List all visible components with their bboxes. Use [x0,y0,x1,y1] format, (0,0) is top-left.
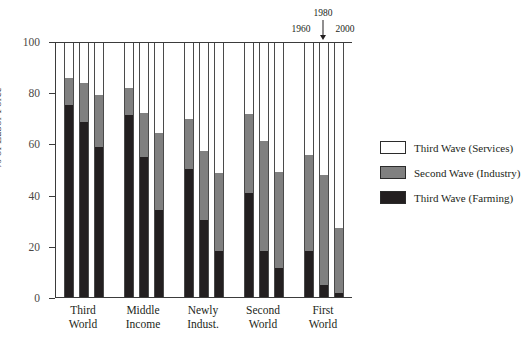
x-group-label-line: World [309,318,337,332]
legend-label-farming: Third Wave (Farming) [414,192,513,204]
legend-swatch-farming [380,191,406,204]
segment-farming [275,268,283,297]
x-group-label-newly-indust: NewlyIndust. [187,304,219,331]
bar-newly-indust-1960 [184,43,194,297]
segment-farming [155,210,163,297]
y-tick-label-60: 60 [0,138,45,150]
x-group-label-line: World [246,318,280,332]
year-label-1960: 1960 [292,24,311,34]
segment-industry [140,113,148,158]
y-tick-label-80: 80 [0,87,45,99]
segment-industry [200,151,208,220]
x-group-label-line: Second [246,304,280,318]
y-tick-label-100: 100 [0,36,45,48]
x-group-label-line: Indust. [187,318,219,332]
segment-industry [185,119,193,169]
segment-farming [65,105,73,297]
legend-label-industry: Second Wave (Industry) [414,167,520,179]
bar-third-world-1980 [79,43,89,297]
segment-farming [185,169,193,297]
bar-middle-income-1980 [139,43,149,297]
legend-swatch-services [380,141,406,154]
segment-farming [215,251,223,297]
year-arrow-stem [323,20,324,36]
legend: Third Wave (Services)Second Wave (Indust… [380,137,523,212]
segment-industry [275,172,283,268]
year-arrow-head-icon [320,35,326,40]
x-group-label-third-world: ThirdWorld [69,304,97,331]
segment-industry [155,133,163,210]
x-group-label-line: Income [126,318,160,332]
bar-first-world-1980 [319,43,329,297]
year-label-2000: 2000 [336,24,355,34]
y-tick-label-40: 40 [0,190,45,202]
segment-farming [305,251,313,297]
segment-industry [215,173,223,251]
bar-second-world-2000 [274,43,284,297]
x-group-label-line: Middle [126,304,160,318]
legend-label-services: Third Wave (Services) [414,142,513,154]
segment-farming [140,157,148,297]
segment-industry [245,114,253,193]
y-tick-label-0: 0 [0,292,45,304]
x-group-label-second-world: SecondWorld [246,304,280,331]
x-group-label-line: First [309,304,337,318]
legend-item-services: Third Wave (Services) [380,137,523,158]
bar-third-world-2000 [94,43,104,297]
legend-item-industry: Second Wave (Industry) [380,162,523,183]
bar-second-world-1980 [259,43,269,297]
y-tick-label-20: 20 [0,241,45,253]
segment-farming [320,285,328,297]
bar-first-world-1960 [304,43,314,297]
segment-farming [245,193,253,297]
x-group-label-first-world: FirstWorld [309,304,337,331]
x-group-label-line: Newly [187,304,219,318]
bar-third-world-1960 [64,43,74,297]
segment-farming [200,220,208,297]
bar-middle-income-1960 [124,43,134,297]
legend-item-farming: Third Wave (Farming) [380,187,523,208]
segment-industry [65,78,73,105]
bar-newly-indust-2000 [214,43,224,297]
year-label-1980: 1980 [314,8,333,18]
segment-farming [80,122,88,297]
segment-industry [95,95,103,147]
segment-farming [125,115,133,297]
bar-second-world-1960 [244,43,254,297]
y-axis-title: % of Labor Force [0,87,3,168]
segment-farming [95,147,103,297]
stacked-bar-chart: % of Labor Force 020406080100 1980196020… [0,0,523,344]
y-tick-0 [49,298,55,299]
segment-industry [335,228,343,293]
bar-first-world-2000 [334,43,344,297]
x-group-label-line: Third [69,304,97,318]
x-group-label-line: World [69,318,97,332]
segment-industry [80,83,88,121]
segment-industry [305,155,313,251]
segment-industry [125,88,133,115]
bar-newly-indust-1980 [199,43,209,297]
segment-industry [260,141,268,251]
legend-swatch-industry [380,166,406,179]
segment-farming [260,251,268,297]
x-group-label-middle-income: MiddleIncome [126,304,160,331]
bar-middle-income-2000 [154,43,164,297]
segment-industry [320,175,328,285]
plot-area [55,42,352,298]
segment-farming [335,293,343,297]
